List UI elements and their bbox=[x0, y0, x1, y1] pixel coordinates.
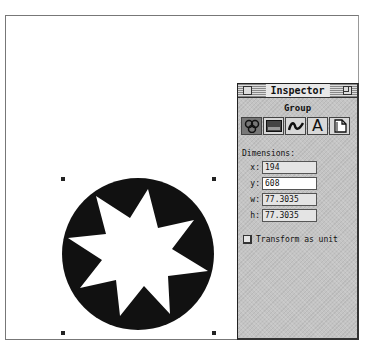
text-icon: A bbox=[312, 118, 323, 134]
fill-icon bbox=[266, 120, 282, 132]
inspector-tabs: A bbox=[241, 117, 357, 137]
x-row: x: bbox=[238, 160, 357, 175]
h-row: h: bbox=[238, 208, 357, 223]
star-circle-group[interactable] bbox=[60, 176, 216, 332]
w-label: w: bbox=[238, 195, 262, 204]
tab-fill[interactable] bbox=[263, 117, 284, 135]
tab-stroke[interactable] bbox=[285, 117, 306, 135]
inspector-titlebar[interactable]: Inspector bbox=[238, 84, 357, 98]
dimensions-label: Dimensions: bbox=[242, 149, 357, 159]
document-icon bbox=[333, 119, 347, 133]
x-field[interactable] bbox=[262, 161, 317, 174]
width-field[interactable] bbox=[262, 193, 317, 206]
y-label: y: bbox=[238, 179, 262, 188]
inspector-title: Inspector bbox=[265, 84, 329, 97]
x-label: x: bbox=[238, 163, 262, 172]
close-box-icon[interactable] bbox=[243, 86, 252, 95]
inspector-palette: Inspector Group A bbox=[237, 83, 359, 340]
y-field[interactable] bbox=[262, 177, 317, 190]
tab-group[interactable] bbox=[241, 117, 262, 135]
transform-as-unit-row[interactable]: Transform as unit bbox=[243, 235, 357, 244]
transform-as-unit-checkbox[interactable] bbox=[243, 235, 252, 244]
w-row: w: bbox=[238, 192, 357, 207]
section-title: Group bbox=[238, 103, 357, 114]
group-icon bbox=[244, 119, 260, 133]
h-label: h: bbox=[238, 211, 262, 220]
tab-text[interactable]: A bbox=[307, 117, 328, 135]
height-field[interactable] bbox=[262, 209, 317, 222]
transform-as-unit-label: Transform as unit bbox=[256, 235, 338, 244]
zoom-box-icon[interactable] bbox=[343, 86, 352, 95]
y-row: y: bbox=[238, 176, 357, 191]
tab-document[interactable] bbox=[329, 117, 350, 135]
stroke-icon bbox=[288, 120, 304, 132]
